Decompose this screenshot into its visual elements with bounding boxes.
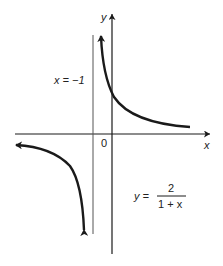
- equation-numerator: 2: [168, 182, 174, 194]
- equation-denominator: 1 + x: [158, 198, 183, 210]
- origin-label: 0: [101, 137, 107, 149]
- curve-lower-branch: [16, 145, 84, 230]
- curve-upper-branch: [101, 36, 190, 127]
- equation-lhs: y =: [133, 190, 150, 202]
- y-axis-label: y: [100, 11, 108, 23]
- function-graph: y x 0 x = −1 y = 2 1 + x: [0, 0, 223, 266]
- equation-label: y = 2 1 + x: [133, 182, 186, 210]
- x-axis-label: x: [203, 139, 210, 151]
- asymptote-label: x = −1: [53, 74, 85, 86]
